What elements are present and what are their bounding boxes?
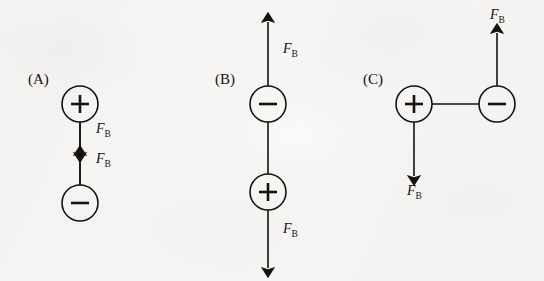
physics-figure: FBFB(A)FBFB(B)FBFB(C) <box>0 0 544 281</box>
force-subscript: B <box>292 49 299 59</box>
minus-sign <box>488 103 506 106</box>
plus-sign-vertical <box>267 183 270 201</box>
force-symbol: F <box>283 221 292 236</box>
force-symbol: F <box>283 41 292 56</box>
plus-sign-vertical <box>413 95 416 113</box>
force-symbol: F <box>96 151 105 166</box>
panel-label-b: (B) <box>215 72 235 87</box>
panel-label-c: (C) <box>363 72 383 87</box>
force-symbol: F <box>490 7 499 22</box>
force-symbol: F <box>407 183 416 198</box>
minus-sign <box>259 103 277 106</box>
plus-sign-vertical <box>79 95 82 113</box>
force-label: FB <box>283 42 298 59</box>
force-label: FB <box>407 184 422 201</box>
force-symbol: F <box>96 121 105 136</box>
panel-label-a: (A) <box>28 72 49 87</box>
minus-sign <box>71 202 89 205</box>
force-label: FB <box>283 222 298 239</box>
diagram-canvas <box>0 0 544 281</box>
force-subscript: B <box>105 129 112 139</box>
force-label: FB <box>96 122 111 139</box>
force-subscript: B <box>292 229 299 239</box>
force-subscript: B <box>105 159 112 169</box>
charge-glyphs <box>71 95 506 204</box>
force-subscript: B <box>499 15 506 25</box>
force-label: FB <box>490 8 505 25</box>
force-label: FB <box>96 152 111 169</box>
force-subscript: B <box>416 191 423 201</box>
